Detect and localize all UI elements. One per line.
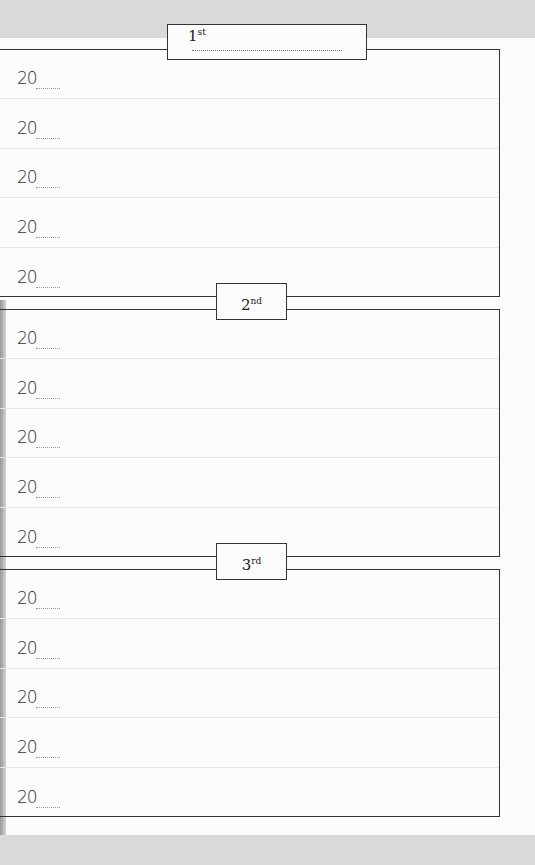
year-prefix: 20 <box>17 588 37 608</box>
year-prefix: 20 <box>17 267 37 287</box>
section-2-label: 2nd <box>216 283 287 320</box>
year-row[interactable]: 20 <box>0 99 499 148</box>
section-1: 20 20 20 20 20 <box>0 49 500 297</box>
year-row[interactable]: 20 <box>0 619 499 668</box>
year-prefix: 20 <box>17 527 37 547</box>
year-prefix: 20 <box>17 378 37 398</box>
year-prefix: 20 <box>17 217 37 237</box>
year-blank[interactable] <box>36 237 60 238</box>
year-blank[interactable] <box>36 138 60 139</box>
year-blank[interactable] <box>36 757 60 758</box>
year-prefix: 20 <box>17 427 37 447</box>
year-row[interactable]: 20 <box>0 669 499 718</box>
year-prefix: 20 <box>17 477 37 497</box>
day-label: 2nd <box>241 296 262 314</box>
section-2: 20 20 20 20 20 <box>0 309 500 557</box>
section-3: 20 20 20 20 20 <box>0 569 500 817</box>
year-prefix: 20 <box>17 737 37 757</box>
year-row[interactable]: 20 <box>0 359 499 408</box>
section-3-label: 3rd <box>216 543 287 580</box>
year-prefix: 20 <box>17 638 37 658</box>
year-prefix: 20 <box>17 167 37 187</box>
year-blank[interactable] <box>36 807 60 808</box>
year-blank[interactable] <box>36 547 60 548</box>
year-blank[interactable] <box>36 497 60 498</box>
year-blank[interactable] <box>36 447 60 448</box>
year-prefix: 20 <box>17 68 37 88</box>
year-prefix: 20 <box>17 118 37 138</box>
year-row[interactable]: 20 <box>0 718 499 767</box>
year-blank[interactable] <box>36 287 60 288</box>
year-blank[interactable] <box>36 88 60 89</box>
year-prefix: 20 <box>17 687 37 707</box>
year-blank[interactable] <box>36 187 60 188</box>
year-blank[interactable] <box>36 658 60 659</box>
year-blank[interactable] <box>36 707 60 708</box>
year-row[interactable]: 20 <box>0 198 499 247</box>
month-blank[interactable] <box>192 50 342 51</box>
year-row[interactable]: 20 <box>0 768 499 817</box>
year-blank[interactable] <box>36 398 60 399</box>
day-label: 1st <box>188 27 206 45</box>
day-label: 3rd <box>242 556 262 574</box>
year-row[interactable]: 20 <box>0 458 499 507</box>
year-prefix: 20 <box>17 787 37 807</box>
year-blank[interactable] <box>36 348 60 349</box>
year-blank[interactable] <box>36 608 60 609</box>
year-row[interactable]: 20 <box>0 409 499 458</box>
year-row[interactable]: 20 <box>0 149 499 198</box>
year-prefix: 20 <box>17 328 37 348</box>
section-1-label[interactable]: 1st <box>167 24 367 60</box>
